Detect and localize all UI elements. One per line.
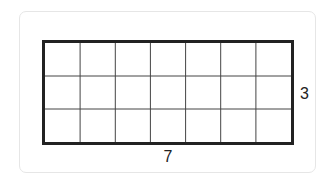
height-label: 3 bbox=[300, 86, 309, 102]
grid-lines bbox=[45, 43, 291, 142]
rectangle-grid bbox=[42, 40, 294, 145]
width-label: 7 bbox=[158, 149, 178, 165]
